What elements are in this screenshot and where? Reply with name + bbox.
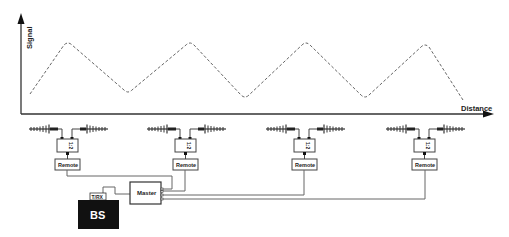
x-axis-label: Distance xyxy=(461,104,492,113)
antenna-icon xyxy=(29,125,58,134)
master-label: Master xyxy=(137,190,157,196)
antenna-icon xyxy=(80,125,108,134)
antenna-icon xyxy=(386,125,415,134)
remote-unit-1: 1:2 Remote xyxy=(29,125,108,171)
remote-label: Remote xyxy=(176,162,196,168)
link-lines xyxy=(67,170,425,199)
splitter-label: 1:2 xyxy=(305,142,311,149)
antenna-icon xyxy=(437,125,465,134)
bs-label: BS xyxy=(90,209,105,221)
remote-unit-2: 1:2 Remote xyxy=(147,125,226,171)
y-axis-label: Signal xyxy=(25,26,34,49)
link-master-bs xyxy=(103,187,130,194)
link-remote-2 xyxy=(163,170,185,191)
antenna-icon xyxy=(147,125,176,134)
chart-axes: Signal Distance xyxy=(18,13,495,118)
remote-label: Remote xyxy=(295,162,315,168)
remote-unit-4: 1:2 Remote xyxy=(386,125,465,171)
remote-unit-3: 1:2 Remote xyxy=(266,125,345,171)
antenna-icon xyxy=(266,125,295,134)
antenna-icon xyxy=(198,125,226,134)
antenna-icon xyxy=(317,125,345,134)
splitter-label: 1:2 xyxy=(186,142,192,149)
remote-label: Remote xyxy=(58,162,78,168)
base-station: T/RX BS xyxy=(78,193,119,229)
trx-label: T/RX xyxy=(92,194,104,200)
splitter-label: 1:2 xyxy=(425,142,431,149)
y-axis-arrow-icon xyxy=(18,13,25,24)
das-coverage-diagram: Signal Distance 1:2 Remote 1:2 Remote xyxy=(0,0,509,237)
splitter-label: 1:2 xyxy=(68,142,74,149)
signal-wave xyxy=(30,43,463,100)
remote-label: Remote xyxy=(415,162,435,168)
master-unit: Master xyxy=(130,182,163,204)
